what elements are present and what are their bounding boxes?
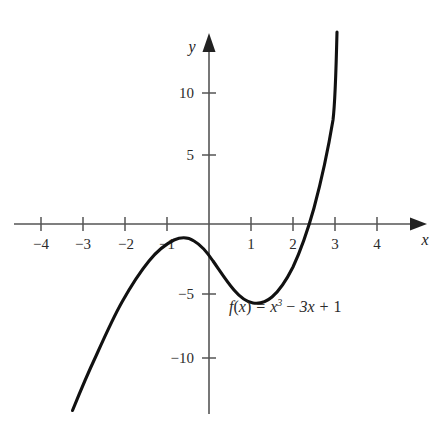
x-tick-label-1: 1 — [247, 236, 255, 252]
equation-close-paren: ) — [246, 298, 251, 316]
equation-variable: x — [238, 298, 246, 315]
y-tick-label-5: 5 — [187, 147, 195, 163]
equation-term2: 3x — [298, 298, 314, 315]
x-tick-label-3: 3 — [331, 236, 339, 252]
equation-plus: + — [320, 298, 329, 315]
x-tick-label-neg2: −2 — [118, 236, 134, 252]
function-graph: −4 −3 −2 −1 1 2 3 4 10 5 −5 −10 x y f(x)… — [0, 0, 443, 429]
y-tick-label-10: 10 — [179, 85, 194, 101]
x-tick-label-2: 2 — [289, 236, 297, 252]
cubic-curve — [73, 32, 338, 411]
y-axis-arrowhead — [203, 33, 216, 52]
equation-equals: = — [256, 298, 265, 315]
figure-container: −4 −3 −2 −1 1 2 3 4 10 5 −5 −10 x y f(x)… — [0, 0, 443, 429]
y-tick-label-neg10: −10 — [171, 350, 194, 366]
x-tick-label-4: 4 — [373, 236, 381, 252]
equation-annotation: f(x)=x3−3x+1 — [229, 297, 342, 316]
y-axis-label: y — [186, 38, 196, 56]
y-tick-label-neg5: −5 — [178, 286, 194, 302]
equation-term1-base: x — [269, 298, 277, 315]
x-axis-label: x — [420, 231, 428, 248]
x-tick-label-neg4: −4 — [33, 236, 49, 252]
equation-minus: − — [286, 298, 295, 315]
equation-term1-exponent: 3 — [276, 297, 282, 308]
x-tick-label-neg3: −3 — [75, 236, 91, 252]
equation-term3: 1 — [334, 298, 342, 315]
x-axis-arrowhead — [410, 218, 427, 231]
